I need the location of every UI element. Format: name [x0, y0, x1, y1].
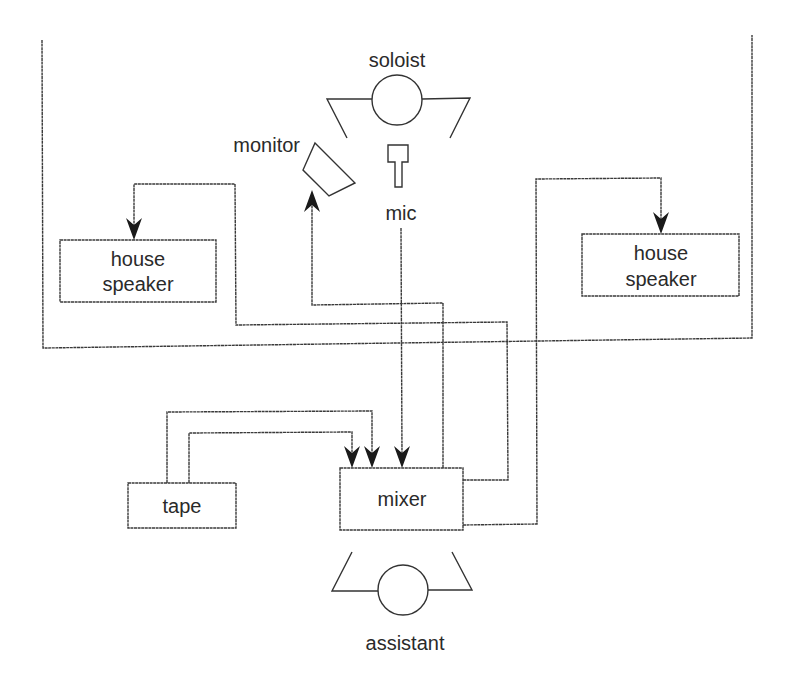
house-speaker-left: house speaker — [60, 240, 216, 302]
house-speaker-right-label-line1: house — [634, 242, 689, 264]
mixer-label: mixer — [378, 488, 427, 510]
assistant-label: assistant — [366, 632, 445, 654]
wire-tape-to-mixer-2 — [189, 432, 352, 483]
mic-label: mic — [385, 202, 416, 224]
wire-mic-to-mixer — [401, 228, 402, 456]
house-speaker-left-label-line2: speaker — [102, 273, 173, 295]
soloist-left-shoulder — [327, 99, 372, 138]
assistant-left-shoulder — [332, 552, 378, 591]
assistant-head-icon — [378, 565, 428, 615]
arrowhead-up-icon — [304, 190, 320, 212]
assistant-figure: assistant — [332, 552, 472, 654]
soloist-figure: soloist — [327, 49, 470, 138]
monitor-label: monitor — [233, 134, 300, 156]
soloist-label: soloist — [369, 49, 426, 71]
soloist-head-icon — [372, 75, 422, 125]
wire-mixer-to-house-speaker-right — [463, 178, 661, 525]
mic: mic — [385, 145, 416, 224]
assistant-right-shoulder — [428, 552, 472, 590]
house-speaker-right-label-line2: speaker — [625, 268, 696, 290]
soloist-right-shoulder — [422, 98, 470, 138]
house-speaker-right: house speaker — [582, 234, 739, 296]
tape: tape — [128, 483, 236, 528]
mixer: mixer — [340, 468, 463, 530]
tape-label: tape — [163, 495, 202, 517]
microphone-icon — [388, 145, 408, 187]
house-speaker-left-label-line1: house — [111, 248, 166, 270]
wire-mixer-to-monitor — [312, 205, 443, 468]
stage-signal-flow-diagram: soloist monitor mic house speaker house … — [0, 0, 789, 680]
monitor: monitor — [233, 134, 355, 196]
wire-mixer-to-house-speaker-left — [134, 184, 508, 480]
arrowhead-down-icon — [344, 446, 360, 468]
monitor-speaker-icon — [303, 143, 355, 196]
